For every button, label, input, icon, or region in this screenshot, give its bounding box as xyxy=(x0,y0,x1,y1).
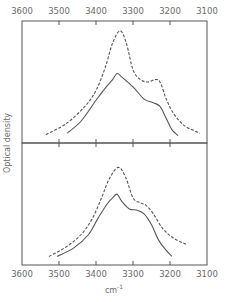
spectrum-figure: 3600 3500 3400 3300 3200 3100 Optical de… xyxy=(0,0,226,302)
bottom-tick-label: 3600 xyxy=(11,269,33,279)
top-tick-label: 3500 xyxy=(48,6,70,16)
bottom-axis-tick-labels: 3600 3500 3400 3300 3200 3100 xyxy=(11,269,218,279)
spectrum-curves xyxy=(46,31,200,257)
x-axis-label-unit: cm xyxy=(105,286,117,295)
top-tick-label: 3200 xyxy=(159,6,181,16)
top-tick-label: 3400 xyxy=(85,6,107,16)
bottom-tick-label: 3400 xyxy=(85,269,107,279)
bottom-tick-label: 3300 xyxy=(122,269,144,279)
bottom-panel-frame xyxy=(22,143,207,265)
bottom-tick-label: 3500 xyxy=(48,269,70,279)
top-solid-curve xyxy=(67,73,178,135)
top-axis-tick-labels: 3600 3500 3400 3300 3200 3100 xyxy=(11,6,218,16)
top-tick-label: 3600 xyxy=(11,6,33,16)
x-axis-label: cm-1 xyxy=(105,283,123,295)
x-axis-label-exponent: -1 xyxy=(117,283,123,290)
y-axis-label: Optical density xyxy=(3,113,12,173)
bottom-tick-label: 3100 xyxy=(196,269,218,279)
top-dashed-curve xyxy=(46,31,200,135)
bottom-solid-curve xyxy=(57,194,172,256)
top-tick-label: 3300 xyxy=(122,6,144,16)
bottom-tick-label: 3200 xyxy=(159,269,181,279)
top-tick-label: 3100 xyxy=(196,6,218,16)
bottom-dashed-curve xyxy=(49,167,186,256)
